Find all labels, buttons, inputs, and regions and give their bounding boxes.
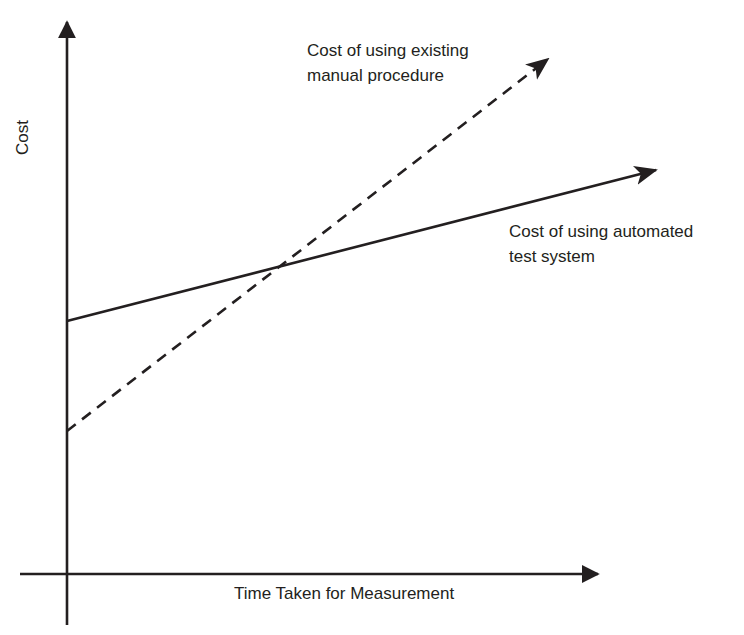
y-axis-label: Cost [12,85,34,155]
annotation-automated-test-system: Cost of using automated test system [509,219,693,269]
chart-canvas [0,0,744,635]
annotation-manual-procedure: Cost of using existing manual procedure [307,38,469,88]
x-axis-label: Time Taken for Measurement [234,583,454,605]
manual-procedure-line [67,59,548,431]
chart-figure: Cost of using existing manual procedure … [0,0,744,635]
series-manual-procedure [67,59,548,431]
